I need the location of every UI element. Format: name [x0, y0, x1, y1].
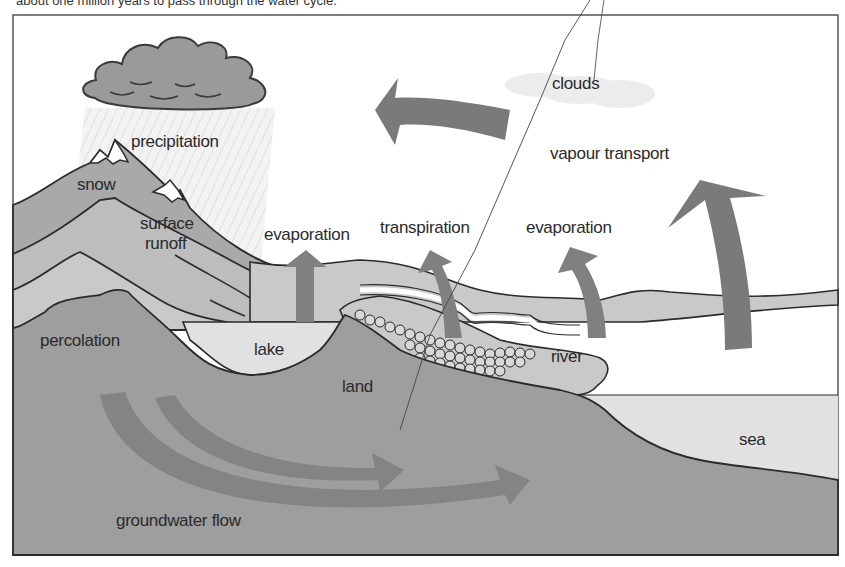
label-groundwater-flow: groundwater flow [116, 511, 242, 530]
label-clouds: clouds [552, 74, 599, 93]
label-runoff: runoff [145, 234, 187, 253]
label-vapour-transport: vapour transport [550, 144, 670, 163]
label-surface: surface [140, 214, 194, 233]
label-lake: lake [254, 340, 284, 359]
label-land: land [342, 377, 373, 396]
label-transpiration: transpiration [380, 218, 470, 237]
label-snow: snow [77, 175, 117, 194]
label-river: river [551, 347, 583, 366]
label-sea: sea [739, 430, 766, 449]
label-precipitation: precipitation [131, 132, 219, 151]
label-percolation: percolation [40, 331, 120, 350]
water-cycle-diagram: precipitation snow surface runoff evapor… [0, 0, 845, 567]
label-evaporation-lake: evaporation [264, 225, 350, 244]
label-evaporation-river: evaporation [526, 218, 612, 237]
